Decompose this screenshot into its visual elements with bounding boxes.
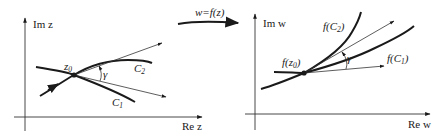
z-curve-c1 xyxy=(36,67,135,102)
w-fc1-label: f(C1) xyxy=(387,52,409,66)
z-plane: Im z Re z γ z0 C1 C2 xyxy=(14,18,202,132)
mapping-label: w=f(z) xyxy=(195,6,225,19)
w-plane: Im w Re w γ f(z0) f(C1) f(C2) xyxy=(245,12,431,130)
z-imag-axis-label: Im z xyxy=(33,18,53,30)
z0-point xyxy=(71,72,76,77)
z-tangent-c2 xyxy=(74,43,162,75)
z-curve-c1-label: C1 xyxy=(112,96,123,110)
w-real-axis-label: Re w xyxy=(408,118,431,130)
z-curve-c2-label: C2 xyxy=(134,62,145,76)
w-angle-label: γ xyxy=(347,52,352,64)
w-imag-axis-label: Im w xyxy=(263,17,286,29)
w-tangent-fc2 xyxy=(304,21,394,73)
mapping-arrow xyxy=(178,22,238,24)
z-real-axis-label: Re z xyxy=(182,120,202,132)
mapping-arrow-group: w=f(z) xyxy=(178,6,238,24)
z-angle-arc xyxy=(99,66,101,81)
z0-label: z0 xyxy=(63,60,72,74)
conformal-mapping-diagram: Im z Re z γ z0 C1 C2 w=f(z) xyxy=(0,0,444,138)
w-fz0-point xyxy=(301,70,306,75)
w-fz0-label: f(z0) xyxy=(282,56,301,70)
w-fc2-label: f(C2) xyxy=(323,20,345,34)
z-angle-label: γ xyxy=(103,68,108,80)
